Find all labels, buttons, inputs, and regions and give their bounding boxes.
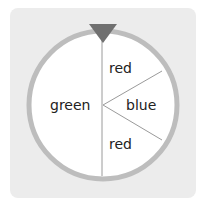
section-label-blue: blue [126,97,156,113]
section-label-red-top: red [109,60,132,76]
spinner: green red blue red [0,0,206,206]
section-label-green: green [50,97,90,113]
section-label-red-bottom: red [109,136,132,152]
